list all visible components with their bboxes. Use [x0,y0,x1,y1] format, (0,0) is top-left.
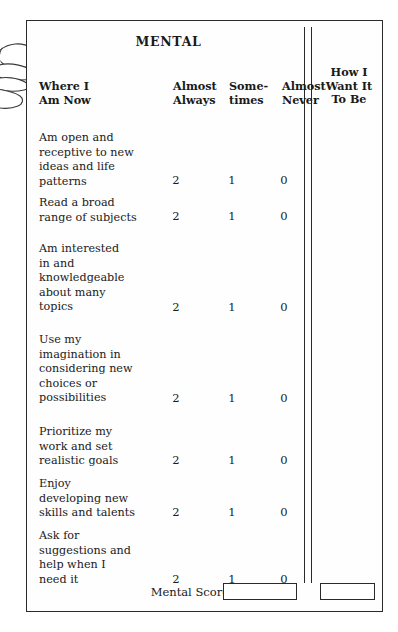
worksheet-page: MENTAL Where I Am Now Almost Always Some… [26,20,383,612]
row-statement: Am open and receptive to new ideas and l… [39,131,165,189]
score-option-sometimes[interactable]: 1 [223,505,241,519]
column-header-almost-always: Almost Always [173,80,229,107]
column-header-where-i-am-now: Where I Am Now [39,80,159,107]
row-statement: Prioritize my work and set realistic goa… [39,425,165,469]
score-option-almost-never[interactable]: 0 [275,453,293,467]
column-header-how-i-want-it-to-be: How I Want It To Be [318,66,380,107]
mental-score-want-input[interactable] [320,583,375,600]
score-option-almost-never[interactable]: 0 [275,173,293,187]
row-statement: Am interested in and knowledgeable about… [39,242,165,315]
score-option-sometimes[interactable]: 1 [223,453,241,467]
column-header-sometimes: Some- times [229,80,283,107]
mental-score-label: Mental Score [109,585,229,599]
score-option-almost-always[interactable]: 2 [167,209,185,223]
score-option-sometimes[interactable]: 1 [223,391,241,405]
score-option-almost-always[interactable]: 2 [167,300,185,314]
column-divider-line-2 [311,27,312,583]
score-option-almost-never[interactable]: 0 [275,505,293,519]
score-option-almost-never[interactable]: 0 [275,391,293,405]
mental-score-now-input[interactable] [223,583,297,600]
score-option-almost-never[interactable]: 0 [275,209,293,223]
page-title: MENTAL [27,34,310,49]
score-option-sometimes[interactable]: 1 [223,173,241,187]
row-statement: Ask for suggestions and help when I need… [39,529,165,587]
score-option-almost-always[interactable]: 2 [167,391,185,405]
score-option-almost-always[interactable]: 2 [167,572,185,586]
score-option-almost-never[interactable]: 0 [275,300,293,314]
score-option-sometimes[interactable]: 1 [223,209,241,223]
row-statement: Read a broad range of subjects [39,196,165,225]
score-option-almost-always[interactable]: 2 [167,173,185,187]
score-option-almost-always[interactable]: 2 [167,453,185,467]
score-option-sometimes[interactable]: 1 [223,300,241,314]
column-divider-line-1 [304,27,305,583]
row-statement: Use my imagination in considering new ch… [39,333,165,406]
row-statement: Enjoy developing new skills and talents [39,477,165,521]
score-option-almost-always[interactable]: 2 [167,505,185,519]
